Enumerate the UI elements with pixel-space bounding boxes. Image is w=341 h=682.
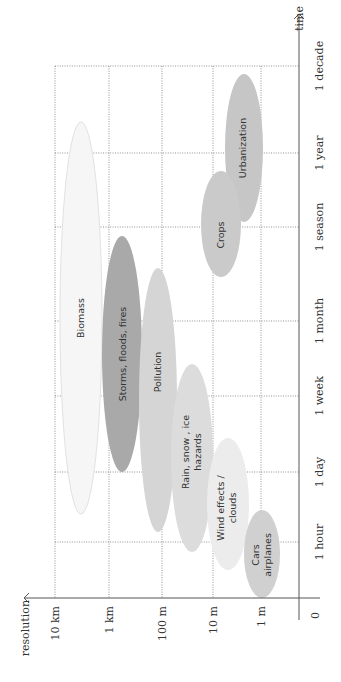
resolution-axis-label: resolution	[19, 600, 32, 656]
label-urbanization: Urbanization	[237, 118, 248, 178]
tick-10m: 10 m	[207, 605, 220, 633]
tick-0: 0	[309, 612, 322, 619]
time-ticks: 1 hour 1 day 1 week 1 month 1 season 1 y…	[313, 41, 326, 560]
tick-1km: 1 km	[103, 605, 116, 633]
label-biomass: Biomass	[75, 298, 86, 338]
tick-1year: 1 year	[313, 135, 326, 171]
label-wind-2: clouds	[227, 493, 238, 524]
tick-1season: 1 season	[313, 203, 326, 252]
tick-1month: 1 month	[313, 298, 326, 344]
time-axis-label: time	[293, 6, 306, 31]
resolution-ticks: 10 km 1 km 100 m 10 m 1 m 0	[49, 605, 322, 641]
region-pollution	[139, 268, 177, 532]
tick-10km: 10 km	[49, 605, 62, 640]
label-rain-1: Rain, snow , ice	[180, 415, 191, 489]
label-pollution: Pollution	[152, 352, 163, 393]
label-storms: Storms, floods, fires	[117, 307, 128, 402]
tick-1day: 1 day	[313, 456, 326, 487]
label-rain-2: hazards	[192, 433, 203, 470]
label-cars-1: Cars	[250, 544, 261, 565]
label-crops: Crops	[215, 221, 226, 248]
label-cars-2: airplanes	[262, 533, 273, 577]
label-wind-1: Wind effects /	[215, 475, 226, 541]
resolution-time-diagram: Biomass Storms, floods, fires Pollution …	[0, 0, 341, 682]
tick-1m: 1 m	[255, 605, 268, 626]
tick-1decade: 1 decade	[313, 41, 326, 91]
tick-1hour: 1 hour	[313, 523, 326, 560]
tick-1week: 1 week	[313, 376, 326, 416]
tick-100m: 100 m	[156, 605, 169, 640]
